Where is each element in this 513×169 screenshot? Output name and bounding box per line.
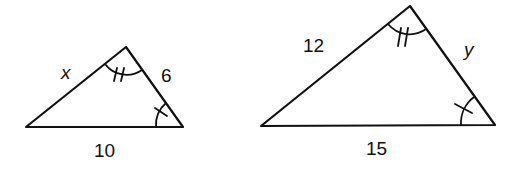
- similar-triangles-diagram: x 6 10 12 y 15: [0, 0, 513, 169]
- small-left-side-label: x: [60, 62, 72, 83]
- small-triangle: [26, 47, 183, 127]
- small-right-side-label: 6: [161, 65, 172, 86]
- large-triangle-outline: [261, 6, 495, 126]
- large-triangle: [261, 6, 495, 126]
- small-triangle-outline: [26, 47, 183, 127]
- large-left-side-label: 12: [303, 35, 324, 56]
- large-apex-tick-2: [405, 28, 408, 46]
- small-base-label: 10: [94, 140, 115, 161]
- small-apex-tick-1: [114, 68, 117, 81]
- large-right-side-label: y: [462, 39, 475, 60]
- large-base-label: 15: [366, 138, 387, 159]
- large-apex-tick-1: [398, 28, 401, 46]
